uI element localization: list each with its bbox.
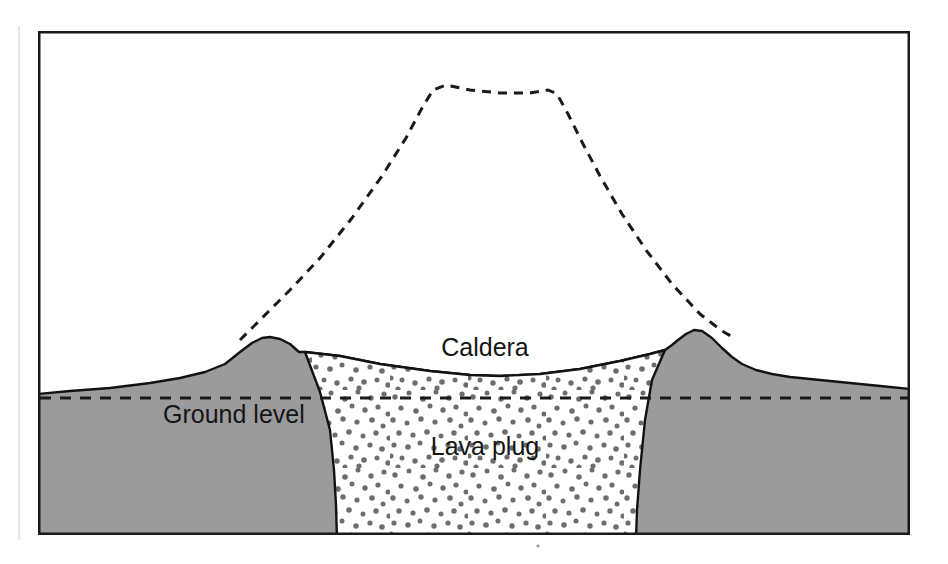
lava-plug-label: Lava plug [431,432,539,460]
figure-root: Caldera Ground level Lava plug [0,0,948,564]
ground-level-label: Ground level [163,400,305,428]
caldera-label: Caldera [441,333,529,361]
print-speck [536,544,539,547]
caldera-cross-section-diagram: Caldera Ground level Lava plug [0,0,948,564]
